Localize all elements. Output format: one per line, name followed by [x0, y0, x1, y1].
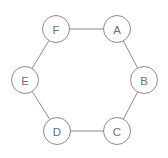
graph-edge-B-C — [123, 92, 137, 119]
graph-edge-D-E — [32, 91, 50, 119]
graph-node-label-D: D — [53, 126, 61, 138]
graph-node-F[interactable]: F — [43, 16, 70, 43]
graph-node-D[interactable]: D — [44, 118, 71, 145]
node-layer: ABCDEF — [12, 16, 158, 145]
graph-node-A[interactable]: A — [104, 16, 131, 43]
graph-node-label-E: E — [21, 75, 29, 87]
graph-edge-A-B — [123, 41, 137, 68]
graph-edge-E-F — [32, 41, 49, 69]
edge-layer — [32, 29, 138, 131]
graph-canvas: ABCDEF — [0, 0, 168, 158]
graph-node-label-A: A — [113, 24, 121, 36]
graph-node-E[interactable]: E — [12, 67, 39, 94]
graph-node-label-C: C — [113, 126, 121, 138]
graph-node-label-F: F — [52, 24, 59, 36]
graph-node-label-B: B — [140, 75, 148, 87]
graph-figure: ABCDEF — [0, 0, 168, 158]
graph-node-C[interactable]: C — [104, 118, 131, 145]
graph-node-B[interactable]: B — [131, 67, 158, 94]
